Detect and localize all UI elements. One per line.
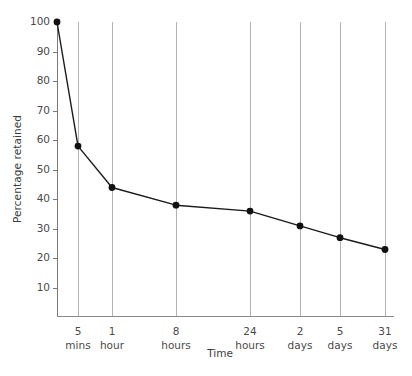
x-axis-tick-label: 1hour (82, 324, 142, 352)
data-point-marker (75, 143, 82, 150)
x-axis-tick-label: 31days (355, 324, 412, 352)
data-point-marker (382, 246, 389, 253)
x-axis-tick-label-line1: 2 (297, 325, 304, 337)
x-axis-tick-label-line1: 8 (173, 325, 180, 337)
data-point-marker (247, 208, 254, 215)
data-point-marker (109, 184, 116, 191)
series-line (57, 22, 385, 250)
plot-area (0, 0, 412, 376)
x-axis-title: Time (190, 347, 250, 359)
data-point-marker (337, 234, 344, 241)
series-markers (54, 19, 389, 253)
x-axis-tick-label-line2: hour (82, 338, 142, 352)
x-axis-tick-label-line1: 31 (378, 325, 391, 337)
x-axis-tick-label-line1: 5 (337, 325, 344, 337)
data-point-marker (297, 223, 304, 230)
data-point-marker (173, 202, 180, 209)
x-axis-tick-label-line1: 5 (75, 325, 82, 337)
x-axis-tick-label-line1: 24 (243, 325, 256, 337)
x-axis-tick-label-line2: days (355, 338, 412, 352)
forgetting-curve-chart: Percentage retained 10090807060504030201… (0, 0, 412, 376)
data-point-marker (54, 19, 61, 26)
x-axis-tick-label-line1: 1 (109, 325, 116, 337)
